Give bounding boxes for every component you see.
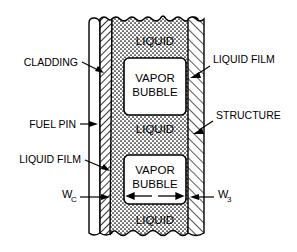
label-w-c-subscript: C bbox=[71, 195, 77, 204]
label-w-3: W 3 bbox=[218, 188, 232, 204]
structure-region bbox=[187, 14, 205, 238]
liquid-middle-label: LIQUID bbox=[136, 123, 174, 135]
label-w-3-subscript: 3 bbox=[227, 195, 232, 204]
vapor-bubble-upper: VAPOR BUBBLE bbox=[124, 58, 186, 115]
label-cladding: CLADDING bbox=[24, 56, 78, 68]
diagram-canvas: VAPOR BUBBLE VAPOR BUBBLE LIQUID LIQUID … bbox=[0, 0, 297, 252]
bubble-lower-line1: VAPOR bbox=[135, 164, 174, 176]
bubble-upper-line1: VAPOR bbox=[135, 72, 174, 84]
liquid-top-label: LIQUID bbox=[136, 35, 174, 47]
label-structure: STRUCTURE bbox=[216, 109, 281, 121]
bubble-upper-line2: BUBBLE bbox=[132, 86, 178, 98]
label-fuel-pin: FUEL PIN bbox=[29, 118, 76, 130]
label-liquid-film-left: LIQUID FILM bbox=[19, 153, 81, 165]
label-w-c: W C bbox=[62, 188, 77, 204]
bubble-lower-line2: BUBBLE bbox=[132, 178, 178, 190]
fuel-pin-region bbox=[89, 18, 100, 235]
label-liquid-film-right: LIQUID FILM bbox=[213, 53, 275, 65]
liquid-bottom-label: LIQUID bbox=[136, 214, 174, 226]
figure-root: VAPOR BUBBLE VAPOR BUBBLE LIQUID LIQUID … bbox=[0, 0, 297, 252]
